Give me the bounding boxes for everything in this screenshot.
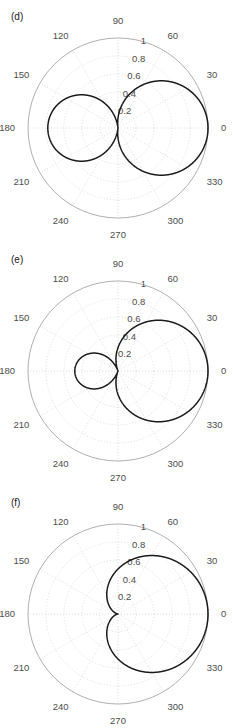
angular-tick-210: 210 [13, 662, 29, 673]
radial-tick-0.6: 0.6 [127, 70, 140, 81]
angular-tick-90: 90 [113, 258, 124, 269]
angular-tick-270: 270 [110, 472, 126, 483]
angular-tick-330: 330 [207, 662, 223, 673]
angular-tick-180: 180 [0, 365, 15, 376]
angular-tick-0: 0 [221, 608, 226, 619]
angular-tick-240: 240 [53, 458, 69, 469]
angular-tick-330: 330 [207, 419, 223, 430]
figure-container: (d) 03060901201501802102402703003300.20.… [0, 0, 233, 728]
panel-label-e: (e) [11, 254, 23, 266]
angular-tick-150: 150 [13, 312, 29, 323]
angular-tick-210: 210 [13, 419, 29, 430]
angular-tick-210: 210 [13, 176, 29, 187]
angular-tick-30: 30 [207, 312, 218, 323]
angular-tick-30: 30 [207, 69, 218, 80]
angular-tick-150: 150 [13, 555, 29, 566]
panel-f: (f) 03060901201501802102402703003300.20.… [0, 486, 233, 728]
angular-tick-180: 180 [0, 122, 15, 133]
angular-tick-90: 90 [113, 501, 124, 512]
radial-tick-1: 1 [141, 278, 146, 289]
angular-tick-120: 120 [53, 516, 69, 527]
radial-tick-0.4: 0.4 [123, 574, 136, 585]
grid-spoke-120 [73, 50, 118, 128]
grid-spoke-330 [118, 614, 196, 659]
angular-tick-0: 0 [221, 122, 226, 133]
grid-spoke-150 [40, 326, 118, 371]
angular-tick-0: 0 [221, 365, 226, 376]
radial-tick-1: 1 [141, 35, 146, 46]
panel-e-data-curve [75, 320, 208, 422]
panel-label-f: (f) [11, 497, 20, 509]
angular-tick-60: 60 [168, 30, 179, 41]
polar-chart-d: 03060901201501802102402703003300.20.40.6… [0, 0, 233, 243]
grid-spoke-330 [118, 128, 196, 173]
angular-tick-270: 270 [110, 229, 126, 240]
angular-tick-300: 300 [168, 215, 184, 226]
angular-tick-120: 120 [53, 30, 69, 41]
angular-tick-60: 60 [168, 516, 179, 527]
angular-tick-240: 240 [53, 215, 69, 226]
grid-spoke-240 [73, 128, 118, 206]
angular-tick-60: 60 [168, 273, 179, 284]
radial-tick-0.2: 0.2 [118, 591, 131, 602]
angular-tick-300: 300 [168, 458, 184, 469]
panel-d: (d) 03060901201501802102402703003300.20.… [0, 0, 233, 243]
angular-tick-30: 30 [207, 555, 218, 566]
radial-tick-0.6: 0.6 [127, 313, 140, 324]
grid-spoke-330 [118, 371, 196, 416]
angular-tick-120: 120 [53, 273, 69, 284]
angular-tick-180: 180 [0, 608, 15, 619]
radial-tick-1: 1 [141, 521, 146, 532]
angular-tick-240: 240 [53, 701, 69, 712]
angular-tick-90: 90 [113, 15, 124, 26]
angular-tick-270: 270 [110, 715, 126, 726]
grid-spoke-300 [118, 128, 163, 206]
grid-spoke-210 [40, 371, 118, 416]
polar-chart-f: 03060901201501802102402703003300.20.40.6… [0, 486, 233, 728]
grid-spoke-300 [118, 371, 163, 449]
polar-chart-e: 03060901201501802102402703003300.20.40.6… [0, 243, 233, 486]
grid-spoke-300 [118, 614, 163, 692]
radial-tick-0.8: 0.8 [132, 539, 145, 550]
angular-tick-150: 150 [13, 69, 29, 80]
angular-tick-300: 300 [168, 701, 184, 712]
angular-tick-330: 330 [207, 176, 223, 187]
radial-tick-0.8: 0.8 [132, 53, 145, 64]
grid-spoke-120 [73, 536, 118, 614]
radial-tick-0.8: 0.8 [132, 296, 145, 307]
panel-e: (e) 03060901201501802102402703003300.20.… [0, 243, 233, 486]
radial-tick-0.2: 0.2 [118, 348, 131, 359]
panel-label-d: (d) [11, 11, 23, 23]
grid-spoke-240 [73, 614, 118, 692]
